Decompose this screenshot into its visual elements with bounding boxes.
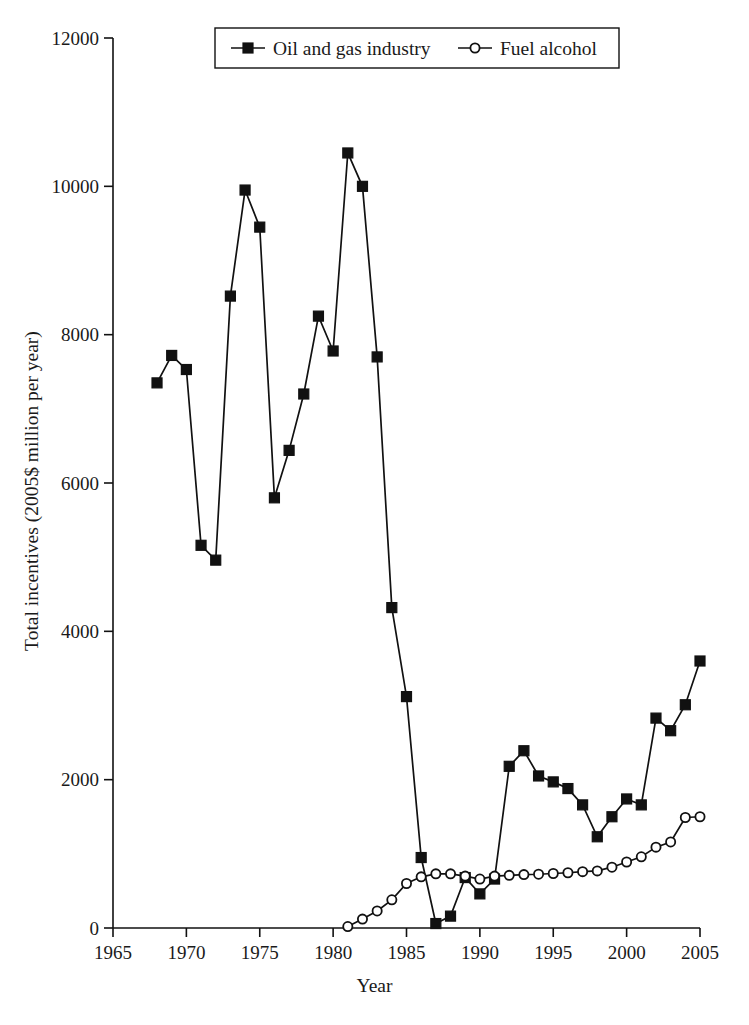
data-point-marker bbox=[534, 771, 544, 781]
series-oil-and-gas-industry bbox=[152, 148, 705, 929]
data-point-marker bbox=[548, 777, 558, 787]
y-tick-label: 4000 bbox=[61, 621, 99, 642]
data-point-marker bbox=[328, 346, 338, 356]
data-point-marker bbox=[563, 784, 573, 794]
x-tick-label: 1980 bbox=[314, 942, 352, 963]
data-point-marker bbox=[622, 794, 632, 804]
data-point-marker bbox=[417, 872, 426, 881]
legend-label-oil-and-gas-industry: Oil and gas industry bbox=[273, 38, 431, 59]
data-point-marker bbox=[695, 656, 705, 666]
data-point-marker bbox=[519, 746, 529, 756]
x-axis: 196519701975198019851990199520002005 bbox=[94, 928, 719, 963]
x-tick-label: 1970 bbox=[167, 942, 205, 963]
data-point-marker bbox=[578, 800, 588, 810]
data-point-marker bbox=[255, 222, 265, 232]
data-point-marker bbox=[387, 603, 397, 613]
data-point-marker bbox=[431, 869, 440, 878]
data-point-marker bbox=[284, 445, 294, 455]
data-point-marker bbox=[637, 852, 646, 861]
data-point-marker bbox=[563, 868, 572, 877]
y-tick-label: 0 bbox=[90, 918, 100, 939]
data-point-marker bbox=[592, 832, 602, 842]
data-point-marker bbox=[695, 812, 704, 821]
legend-marker-filled-square bbox=[243, 43, 253, 53]
data-point-marker bbox=[343, 148, 353, 158]
series-layer bbox=[152, 148, 705, 931]
data-point-marker bbox=[622, 857, 631, 866]
data-point-marker bbox=[607, 863, 616, 872]
legend-label-fuel-alcohol: Fuel alcohol bbox=[500, 38, 598, 59]
data-point-marker bbox=[534, 870, 543, 879]
data-point-marker bbox=[357, 181, 367, 191]
y-axis-title-wrap: Total incentives (2005$ million per year… bbox=[0, 0, 44, 1025]
data-point-marker bbox=[461, 871, 470, 880]
data-point-marker bbox=[680, 700, 690, 710]
data-point-marker bbox=[666, 726, 676, 736]
data-point-marker bbox=[636, 800, 646, 810]
data-point-marker bbox=[651, 713, 661, 723]
x-tick-label: 2000 bbox=[608, 942, 646, 963]
y-tick-label: 6000 bbox=[61, 473, 99, 494]
x-axis-title: Year bbox=[0, 975, 749, 997]
data-point-marker bbox=[343, 922, 352, 931]
data-point-marker bbox=[607, 812, 617, 822]
data-point-marker bbox=[387, 895, 396, 904]
x-tick-label: 1990 bbox=[461, 942, 499, 963]
data-point-marker bbox=[505, 871, 514, 880]
data-point-marker bbox=[313, 311, 323, 321]
data-point-marker bbox=[402, 692, 412, 702]
chart-legend: Oil and gas industryFuel alcohol bbox=[215, 28, 619, 68]
data-point-marker bbox=[549, 869, 558, 878]
data-point-marker bbox=[152, 378, 162, 388]
data-point-marker bbox=[211, 555, 221, 565]
data-point-marker bbox=[475, 874, 484, 883]
data-point-marker bbox=[519, 870, 528, 879]
data-point-marker bbox=[475, 889, 485, 899]
legend-marker-open-circle bbox=[470, 43, 479, 52]
y-tick-label: 2000 bbox=[61, 769, 99, 790]
data-point-marker bbox=[269, 493, 279, 503]
data-point-marker bbox=[167, 350, 177, 360]
data-point-marker bbox=[490, 871, 499, 880]
data-point-marker bbox=[681, 813, 690, 822]
data-point-marker bbox=[240, 185, 250, 195]
data-point-marker bbox=[358, 915, 367, 924]
y-tick-label: 12000 bbox=[52, 28, 100, 49]
data-point-marker bbox=[578, 867, 587, 876]
data-point-marker bbox=[651, 843, 660, 852]
chart-canvas: 020004000600080001000012000 196519701975… bbox=[0, 0, 749, 1025]
data-point-marker bbox=[431, 919, 441, 929]
data-point-marker bbox=[666, 837, 675, 846]
y-axis-title: Total incentives (2005$ million per year… bbox=[21, 141, 43, 841]
data-point-marker bbox=[446, 911, 456, 921]
data-point-marker bbox=[196, 540, 206, 550]
data-point-marker bbox=[373, 906, 382, 915]
data-point-marker bbox=[504, 761, 514, 771]
y-tick-label: 10000 bbox=[52, 176, 100, 197]
y-axis: 020004000600080001000012000 bbox=[52, 28, 114, 939]
x-tick-label: 1995 bbox=[534, 942, 572, 963]
series-fuel-alcohol bbox=[343, 812, 704, 931]
x-tick-label: 1975 bbox=[241, 942, 279, 963]
data-point-marker bbox=[225, 291, 235, 301]
data-point-marker bbox=[593, 866, 602, 875]
x-tick-label: 2005 bbox=[681, 942, 719, 963]
chart-figure: 020004000600080001000012000 196519701975… bbox=[0, 0, 749, 1025]
x-tick-label: 1985 bbox=[388, 942, 426, 963]
data-point-marker bbox=[372, 352, 382, 362]
data-point-marker bbox=[299, 389, 309, 399]
data-point-marker bbox=[181, 365, 191, 375]
x-tick-label: 1965 bbox=[94, 942, 132, 963]
y-tick-label: 8000 bbox=[61, 324, 99, 345]
data-point-marker bbox=[416, 853, 426, 863]
data-point-marker bbox=[446, 869, 455, 878]
data-point-marker bbox=[402, 879, 411, 888]
